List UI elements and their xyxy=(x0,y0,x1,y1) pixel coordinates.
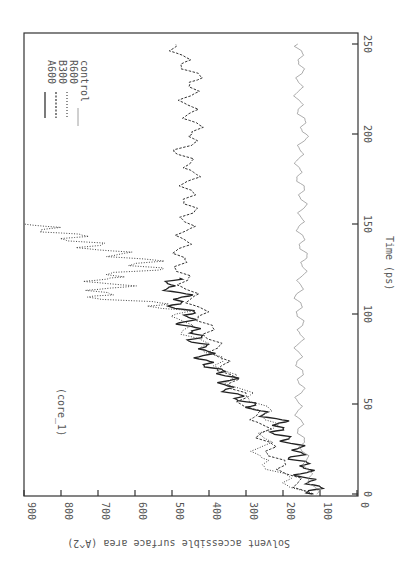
legend: A600 B300 R600 control xyxy=(45,60,90,126)
legend-label-b300: B300 xyxy=(57,60,68,84)
legend-label-r600: R600 xyxy=(68,60,79,84)
series-layer xyxy=(24,44,323,494)
y-tick-label: 200 xyxy=(285,502,296,520)
x-axis-title: Time (ps) xyxy=(384,236,395,290)
x-tick-label: 150 xyxy=(362,215,373,233)
y-tick-label: 300 xyxy=(248,502,259,520)
x-tick-label: 0 xyxy=(362,491,373,497)
x-tick-label: 100 xyxy=(362,305,373,323)
legend-label-control: control xyxy=(79,60,90,102)
plot-frame xyxy=(24,33,358,496)
series-control xyxy=(294,44,320,494)
y-axis-title: Solvent accessible surface area (A^2) xyxy=(67,538,290,549)
y-tick-label: 400 xyxy=(211,502,222,520)
y-tick-label: 600 xyxy=(137,502,148,520)
y-tick-label: 900 xyxy=(26,502,37,520)
y-tick-label: 500 xyxy=(174,502,185,520)
legend-label-a600: A600 xyxy=(46,60,57,84)
y-tick-label: 0 xyxy=(359,502,370,508)
y-tick-label: 700 xyxy=(100,502,111,520)
series-b300 xyxy=(169,44,313,494)
axis-ticks: 0100200300400500600700800900050100150200… xyxy=(24,35,373,520)
sasa-line-chart: 0100200300400500600700800900050100150200… xyxy=(0,0,399,566)
x-tick-label: 200 xyxy=(362,125,373,143)
x-tick-label: 250 xyxy=(362,35,373,53)
y-tick-label: 100 xyxy=(322,502,333,520)
core-annotation: (core_1) xyxy=(55,388,67,436)
series-r600 xyxy=(24,224,308,494)
series-a600 xyxy=(164,278,323,494)
x-tick-label: 50 xyxy=(362,398,373,410)
y-tick-label: 800 xyxy=(63,502,74,520)
